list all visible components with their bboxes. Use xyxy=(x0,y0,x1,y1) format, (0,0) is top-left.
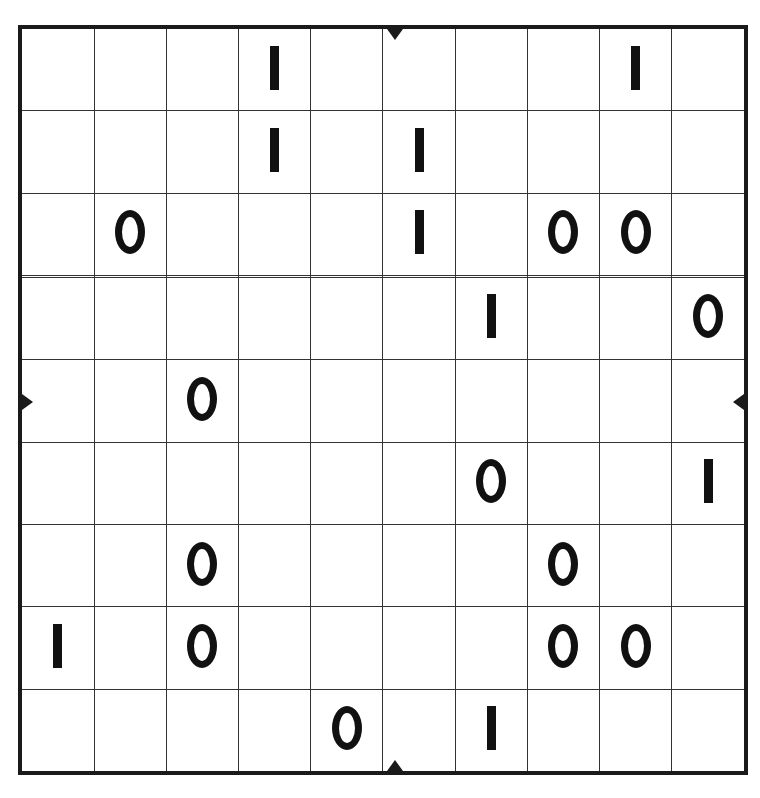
grid-cell-empty[interactable] xyxy=(22,29,94,111)
grid-cell-empty[interactable] xyxy=(672,111,744,193)
grid-cell-empty[interactable] xyxy=(600,689,672,771)
grid-cell-empty[interactable] xyxy=(94,607,166,689)
grid-cell-empty[interactable] xyxy=(22,524,94,606)
grid-cell-empty[interactable] xyxy=(672,29,744,111)
grid-cell-empty[interactable] xyxy=(166,442,238,524)
grid-cell-empty[interactable] xyxy=(311,29,383,111)
symbol-one-icon xyxy=(270,128,279,172)
grid-cell-one[interactable] xyxy=(455,689,527,771)
grid-cell-empty[interactable] xyxy=(455,193,527,275)
grid-cell-empty[interactable] xyxy=(311,111,383,193)
grid-cell-empty[interactable] xyxy=(94,111,166,193)
grid-cell-zero[interactable] xyxy=(600,607,672,689)
grid-row xyxy=(22,29,744,111)
grid-cell-one[interactable] xyxy=(239,29,311,111)
grid-cell-empty[interactable] xyxy=(311,524,383,606)
grid-cell-zero[interactable] xyxy=(166,360,238,442)
grid-cell-empty[interactable] xyxy=(239,524,311,606)
grid-cell-empty[interactable] xyxy=(94,360,166,442)
center-tick-right-icon xyxy=(733,394,744,410)
grid-cell-empty[interactable] xyxy=(166,29,238,111)
grid-cell-empty[interactable] xyxy=(600,524,672,606)
grid-cell-empty[interactable] xyxy=(311,607,383,689)
grid-cell-empty[interactable] xyxy=(239,689,311,771)
grid-cell-empty[interactable] xyxy=(600,277,672,359)
grid-cell-one[interactable] xyxy=(383,111,455,193)
center-tick-top-icon xyxy=(387,29,403,40)
puzzle-grid-frame xyxy=(18,25,748,775)
grid-cell-empty[interactable] xyxy=(94,277,166,359)
grid-cell-empty[interactable] xyxy=(311,193,383,275)
grid-cell-empty[interactable] xyxy=(600,442,672,524)
grid-cell-empty[interactable] xyxy=(311,277,383,359)
grid-cell-zero[interactable] xyxy=(527,607,599,689)
grid-cell-empty[interactable] xyxy=(527,111,599,193)
grid-cell-empty[interactable] xyxy=(239,442,311,524)
grid-cell-one[interactable] xyxy=(22,607,94,689)
grid-cell-empty[interactable] xyxy=(383,607,455,689)
grid-cell-zero[interactable] xyxy=(672,277,744,359)
grid-cell-empty[interactable] xyxy=(383,524,455,606)
grid-cell-empty[interactable] xyxy=(22,111,94,193)
grid-cell-empty[interactable] xyxy=(383,29,455,111)
grid-cell-zero[interactable] xyxy=(166,524,238,606)
grid-cell-empty[interactable] xyxy=(455,607,527,689)
grid-cell-empty[interactable] xyxy=(22,689,94,771)
grid-cell-empty[interactable] xyxy=(22,442,94,524)
puzzle-grid[interactable] xyxy=(22,29,744,771)
grid-cell-empty[interactable] xyxy=(94,442,166,524)
center-tick-left-icon xyxy=(22,394,33,410)
grid-cell-zero[interactable] xyxy=(527,524,599,606)
grid-cell-zero[interactable] xyxy=(94,193,166,275)
grid-cell-empty[interactable] xyxy=(527,360,599,442)
grid-cell-empty[interactable] xyxy=(239,277,311,359)
grid-cell-empty[interactable] xyxy=(94,689,166,771)
grid-cell-empty[interactable] xyxy=(455,524,527,606)
grid-cell-empty[interactable] xyxy=(600,111,672,193)
grid-cell-empty[interactable] xyxy=(239,360,311,442)
symbol-zero-icon xyxy=(187,542,217,586)
grid-cell-empty[interactable] xyxy=(383,689,455,771)
grid-cell-empty[interactable] xyxy=(94,29,166,111)
grid-cell-zero[interactable] xyxy=(455,442,527,524)
grid-cell-empty[interactable] xyxy=(311,442,383,524)
grid-cell-empty[interactable] xyxy=(455,29,527,111)
grid-cell-zero[interactable] xyxy=(311,689,383,771)
grid-cell-empty[interactable] xyxy=(22,193,94,275)
grid-cell-empty[interactable] xyxy=(166,193,238,275)
grid-cell-empty[interactable] xyxy=(600,360,672,442)
grid-cell-empty[interactable] xyxy=(383,442,455,524)
grid-cell-zero[interactable] xyxy=(527,193,599,275)
grid-cell-one[interactable] xyxy=(455,277,527,359)
grid-cell-empty[interactable] xyxy=(166,689,238,771)
grid-cell-empty[interactable] xyxy=(311,360,383,442)
grid-cell-empty[interactable] xyxy=(672,607,744,689)
grid-cell-empty[interactable] xyxy=(527,277,599,359)
grid-cell-one[interactable] xyxy=(239,111,311,193)
grid-cell-zero[interactable] xyxy=(166,607,238,689)
grid-cell-empty[interactable] xyxy=(166,111,238,193)
grid-cell-empty[interactable] xyxy=(239,607,311,689)
symbol-zero-icon xyxy=(621,210,651,254)
grid-cell-empty[interactable] xyxy=(455,111,527,193)
grid-cell-empty[interactable] xyxy=(94,524,166,606)
symbol-one-icon xyxy=(487,294,496,338)
grid-cell-one[interactable] xyxy=(672,442,744,524)
grid-cell-empty[interactable] xyxy=(166,277,238,359)
grid-cell-zero[interactable] xyxy=(600,193,672,275)
grid-cell-one[interactable] xyxy=(600,29,672,111)
grid-cell-empty[interactable] xyxy=(672,689,744,771)
grid-cell-empty[interactable] xyxy=(672,193,744,275)
grid-cell-empty[interactable] xyxy=(527,689,599,771)
grid-cell-empty[interactable] xyxy=(672,524,744,606)
grid-cell-empty[interactable] xyxy=(527,29,599,111)
grid-cell-empty[interactable] xyxy=(383,277,455,359)
grid-row xyxy=(22,193,744,275)
grid-cell-empty[interactable] xyxy=(383,360,455,442)
grid-cell-empty[interactable] xyxy=(455,360,527,442)
grid-cell-empty[interactable] xyxy=(22,277,94,359)
grid-cell-empty[interactable] xyxy=(527,442,599,524)
symbol-one-icon xyxy=(415,128,424,172)
grid-cell-one[interactable] xyxy=(383,193,455,275)
grid-cell-empty[interactable] xyxy=(239,193,311,275)
